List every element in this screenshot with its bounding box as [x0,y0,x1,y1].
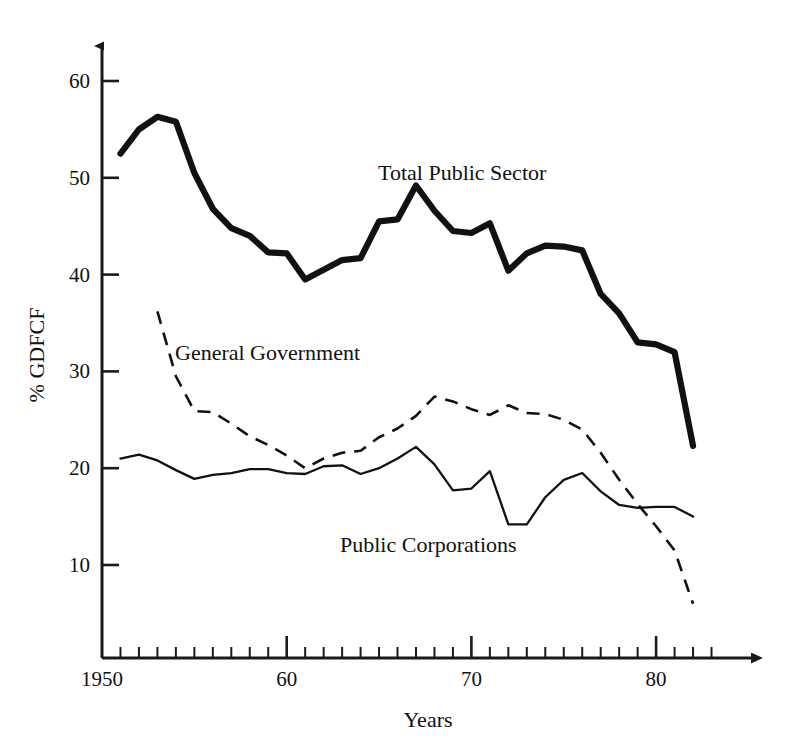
y-tick-label-60: 60 [69,69,90,93]
series-label-total-public-sector: Total Public Sector [378,160,547,185]
y-axis-title: % GDFCF [24,308,49,403]
series-label-public-corporations: Public Corporations [340,532,517,557]
x-tick-label-1950: 1950 [81,667,123,691]
series-label-general-government: General Government [175,340,360,365]
series-line-public-corporations [120,447,693,524]
chart-figure: 102030405060 1950607080 % GDFCF Years To… [0,0,799,751]
y-tick-label-50: 50 [69,166,90,190]
x-ticks-group: 1950607080 [81,636,712,691]
x-axis-title: Years [403,707,452,732]
x-tick-label-80: 80 [646,667,667,691]
series-annotations-group: Total Public Sector General Government P… [175,160,547,557]
y-tick-label-30: 30 [69,359,90,383]
y-tick-label-20: 20 [69,456,90,480]
x-tick-label-70: 70 [461,667,482,691]
line-chart-canvas: 102030405060 1950607080 % GDFCF Years To… [0,0,799,751]
y-ticks-group: 102030405060 [69,69,119,577]
y-tick-label-10: 10 [69,553,90,577]
y-tick-label-40: 40 [69,263,90,287]
x-tick-label-60: 60 [276,667,297,691]
